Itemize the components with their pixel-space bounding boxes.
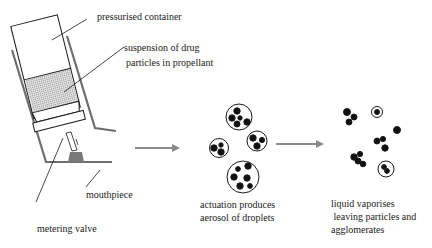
process-arrow-2 (276, 140, 324, 148)
caption-stage3-line3: agglomerates (331, 224, 384, 236)
droplet (247, 131, 267, 151)
label-suspension-line1: suspension of drug (124, 42, 200, 54)
droplet (210, 139, 229, 158)
metering-valve-stem (66, 132, 84, 162)
pressurised-canister (9, 14, 86, 131)
droplet (226, 104, 252, 130)
label-metering-valve: metering valve (37, 223, 97, 235)
process-arrow-1 (135, 144, 180, 152)
caption-stage2-line1: actuation produces (200, 199, 275, 211)
caption-stage2-line2: aerosol of droplets (200, 212, 274, 224)
caption-stage3-line1: liquid vaporises (331, 198, 395, 210)
label-pressurised-container: pressurised container (97, 11, 182, 23)
droplet-cluster (210, 104, 268, 193)
label-suspension-line2: particles in propellant (126, 57, 213, 69)
label-mouthpiece: mouthpiece (86, 189, 133, 201)
caption-stage3-line2: leaving particles and (331, 211, 416, 223)
droplet (227, 161, 259, 193)
particle-field (344, 107, 401, 178)
